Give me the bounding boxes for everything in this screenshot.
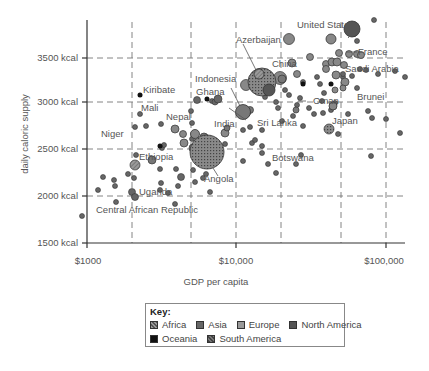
y-tick: 2000 kcal	[37, 190, 78, 201]
bubble-indonesia	[236, 105, 251, 120]
bubble-chart: 1500 kcal 2000 kcal 2500 kcal 3000 kcal …	[0, 0, 429, 300]
y-axis-title: daily caloric supply	[19, 94, 30, 174]
europe-swatch-icon	[237, 321, 245, 329]
legend-item-south-america: South America	[207, 332, 281, 346]
label-sri-lanka: Sri Lanka	[257, 117, 298, 128]
africa-swatch-icon	[150, 321, 158, 329]
south-america-swatch-icon	[207, 335, 215, 343]
label-france: France	[358, 46, 388, 57]
legend-item-north-america: North America	[289, 318, 361, 332]
y-tick: 2500 kcal	[37, 143, 78, 154]
label-saudi-arabia: Saudi Arabia	[345, 63, 400, 74]
legend-item-europe: Europe	[237, 318, 280, 332]
label-oman: Oman	[313, 95, 339, 106]
label-niger: Niger	[101, 128, 124, 139]
x-axis-title: GDP per capita	[184, 276, 249, 287]
label-japan: Japan	[332, 115, 358, 126]
x-tick: $100,000	[364, 255, 404, 266]
asia-swatch-icon	[196, 321, 204, 329]
label-kiribati: Kiribate	[143, 84, 175, 95]
label-india: India	[214, 118, 235, 129]
x-tick: $1000	[75, 255, 101, 266]
legend-item-oceania: Oceania	[150, 332, 197, 346]
x-tick: $10,000	[219, 255, 253, 266]
label-china: China	[272, 58, 298, 69]
legend-item-africa: Africa	[150, 318, 186, 332]
bubble-india	[190, 135, 224, 169]
label-indonesia: Indonesia	[195, 73, 237, 84]
legend-item-asia: Asia	[196, 318, 226, 332]
legend-row: Oceania South America	[150, 332, 340, 346]
bubble-azerbaijan	[254, 69, 264, 79]
legend-row: Africa Asia Europe North America	[150, 318, 340, 332]
label-central-african-republic: Central African Republic	[96, 204, 198, 215]
label-uganda: Uganda	[139, 186, 173, 197]
label-angola: Angola	[204, 173, 234, 184]
label-botswana: Botswana	[272, 152, 314, 163]
label-ethiopia: Ethiopia	[139, 151, 174, 162]
y-tick: 3500 kcal	[37, 52, 78, 63]
label-brunei: Brunei	[357, 91, 384, 102]
label-mali: Mali	[141, 102, 158, 113]
label-azerbaijan: Azerbaijan	[236, 34, 281, 45]
x-tick-labels: $1000 $10,000 $100,000	[75, 255, 404, 266]
label-united-states: United States	[297, 19, 354, 30]
north-america-swatch-icon	[289, 321, 297, 329]
label-nepal: Nepal	[166, 111, 191, 122]
oceania-swatch-icon	[150, 335, 158, 343]
y-tick: 3000 kcal	[37, 96, 78, 107]
y-tick: 1500 kcal	[37, 237, 78, 248]
legend-title: Key:	[150, 306, 340, 318]
label-ghana: Ghana	[196, 86, 225, 97]
y-tick-labels: 1500 kcal 2000 kcal 2500 kcal 3000 kcal …	[37, 52, 78, 248]
legend: Key: Africa Asia Europe North America Oc…	[145, 303, 345, 347]
